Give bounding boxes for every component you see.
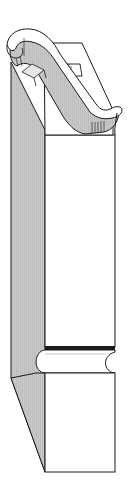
shaft-front-face	[45, 135, 115, 347]
base	[11, 373, 115, 472]
collar	[36, 346, 115, 373]
newel-post-drawing	[0, 0, 127, 498]
newel-post-illustration: Isometric line drawing of a stair newel …	[0, 0, 127, 498]
